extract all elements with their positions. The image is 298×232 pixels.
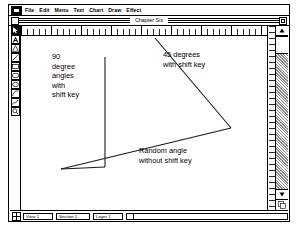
arrow-select-tool[interactable]	[11, 26, 20, 35]
rectangle-icon	[12, 63, 19, 70]
window-title: Chapter Six	[130, 17, 168, 24]
annotation-random-angle: Random angle without shift key	[139, 146, 192, 165]
arc-icon	[12, 90, 19, 97]
menu-bar: File Edit Menu Text Chart Draw Effect	[9, 5, 289, 16]
zoom-box-icon[interactable]	[279, 17, 287, 25]
freehand-tool[interactable]	[11, 98, 20, 107]
horizontal-ruler-major-ticks	[21, 26, 267, 35]
menu-item-menu[interactable]: Menu	[55, 7, 69, 13]
polygon-tool[interactable]	[11, 44, 20, 53]
annotation-45-line-2: with shift key	[163, 60, 205, 70]
oval-icon	[12, 81, 19, 88]
annotation-90-line-4: with	[52, 81, 79, 91]
text-tool[interactable]	[11, 35, 20, 44]
menu-item-file[interactable]: File	[25, 7, 34, 13]
arc-tool[interactable]	[11, 89, 20, 98]
window-resize-grow-box[interactable]	[276, 199, 288, 210]
menu-item-effect[interactable]: Effect	[126, 7, 141, 13]
oval-tool[interactable]	[11, 80, 20, 89]
zoom-tool[interactable]	[11, 107, 20, 116]
magnifier-icon	[12, 108, 19, 115]
annotation-random-line-2: without shift key	[139, 156, 192, 166]
horizontal-scrollbar-thumb[interactable]	[126, 213, 134, 220]
triangle-icon	[12, 45, 19, 52]
grow-box-icon	[278, 201, 286, 209]
annotation-90-degree: 90 degree angles with shift key	[52, 52, 79, 100]
annotation-45-line-1: 45 degrees	[163, 50, 205, 60]
letter-a-icon	[12, 36, 19, 43]
annotation-45-degree: 45 degrees with shift key	[163, 50, 205, 69]
menu-item-edit[interactable]: Edit	[39, 7, 49, 13]
rounded-rectangle-tool[interactable]	[11, 71, 20, 80]
line-tool[interactable]	[11, 53, 20, 62]
chevron-up-icon	[279, 28, 285, 33]
section-field[interactable]: Section 1	[56, 213, 90, 220]
diagonal-line-icon	[12, 54, 19, 61]
title-bar-stripes-left	[19, 17, 130, 25]
annotation-90-line-1: 90	[52, 52, 79, 62]
title-bar[interactable]: Chapter Six	[9, 16, 289, 26]
annotation-random-line-1: Random angle	[139, 146, 192, 156]
view-field[interactable]: View 1	[23, 213, 53, 220]
page-navigation-icon[interactable]	[12, 212, 21, 221]
menu-item-chart[interactable]: Chart	[89, 7, 103, 13]
rounded-rectangle-icon	[12, 72, 19, 79]
vertical-scrollbar[interactable]	[275, 26, 288, 210]
scroll-down-button[interactable]	[276, 189, 288, 199]
apple-menu-icon[interactable]	[11, 6, 22, 15]
vertical-scrollbar-track[interactable]	[276, 54, 288, 189]
arrow-icon	[12, 27, 19, 34]
annotation-90-line-5: shift key	[52, 90, 79, 100]
close-icon[interactable]	[11, 17, 19, 25]
annotation-90-line-3: angles	[52, 71, 79, 81]
status-bar: View 1 Section 1 Layer 1	[10, 210, 288, 221]
scroll-up-button[interactable]	[276, 26, 288, 36]
chevron-down-icon	[279, 192, 285, 197]
vertical-scrollbar-thumb[interactable]	[276, 36, 288, 54]
freehand-icon	[12, 99, 19, 106]
vertical-ruler	[267, 26, 275, 210]
rectangle-tool[interactable]	[11, 62, 20, 71]
menu-item-draw[interactable]: Draw	[108, 7, 121, 13]
title-bar-stripes-right	[168, 17, 279, 25]
annotation-90-line-2: degree	[52, 62, 79, 72]
layer-field[interactable]: Layer 1	[93, 213, 123, 220]
tool-palette	[10, 26, 21, 210]
menu-item-text[interactable]: Text	[74, 7, 85, 13]
drawing-canvas[interactable]: 90 degree angles with shift key 45 degre…	[21, 36, 267, 210]
horizontal-scrollbar-track[interactable]	[134, 213, 288, 220]
horizontal-ruler	[21, 26, 267, 36]
application-window: File Edit Menu Text Chart Draw Effect Ch…	[8, 4, 290, 222]
